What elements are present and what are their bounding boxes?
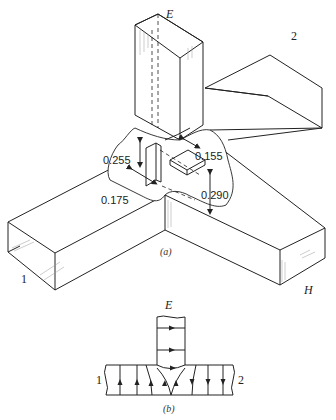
dim-0-255: 0.255 xyxy=(103,154,131,166)
waveguide-diagram: E 2 1 H 0.255 0.155 0.175 0.290 (a) E xyxy=(0,0,336,420)
dim-0-155: 0.155 xyxy=(195,150,223,162)
figure-b: E xyxy=(96,298,244,415)
arm-E xyxy=(135,14,203,140)
figure-a: E 2 1 H 0.255 0.155 0.175 0.290 (a) xyxy=(8,7,325,297)
label-E-arm-b: E xyxy=(164,298,173,312)
label-port-2: 2 xyxy=(291,29,297,43)
caption-b: (b) xyxy=(163,403,175,415)
arm-port-2 xyxy=(205,55,322,140)
label-port-1: 1 xyxy=(21,272,27,286)
dim-0-175: 0.175 xyxy=(101,194,129,206)
label-port-1-b: 1 xyxy=(96,373,102,387)
label-port-2-b: 2 xyxy=(238,373,244,387)
label-H-arm: H xyxy=(303,283,314,297)
label-E-arm: E xyxy=(165,7,174,21)
caption-a: (a) xyxy=(160,246,172,258)
dim-0-290: 0.290 xyxy=(201,189,229,201)
